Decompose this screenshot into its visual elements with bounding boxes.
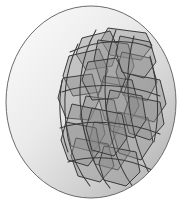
abstract-sphere-figure	[0, 0, 186, 204]
